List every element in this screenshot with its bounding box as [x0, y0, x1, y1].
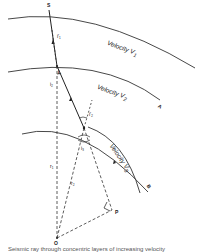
- surface-arc: [8, 16, 195, 68]
- label-angle-i3: i₃: [81, 146, 84, 151]
- point-l: [56, 65, 58, 67]
- point-o: [56, 237, 58, 239]
- right-angle-marker: [104, 202, 110, 211]
- figure-caption: Seismic ray through concentric layers of…: [8, 246, 203, 252]
- ray-diagram: S L O P A B Velocity V1 Velocity V2 Velo…: [0, 0, 207, 252]
- label-point-l: L: [58, 70, 61, 75]
- label-angle-i1p: i′₁: [57, 34, 61, 39]
- label-angle-i2p: i′₂: [89, 112, 93, 117]
- label-point-s: S: [47, 3, 50, 8]
- angle-arc-i3-b: [78, 135, 90, 137]
- label-angle-i2: i₂: [50, 82, 53, 87]
- angle-arc-i2p: [79, 117, 87, 118]
- point-junction: [83, 127, 85, 129]
- ray-extension-dashed: [84, 128, 112, 210]
- label-radius-r2: r₂: [71, 181, 75, 186]
- interface-a-arc: [8, 67, 160, 100]
- perpendicular-op: [57, 210, 112, 238]
- interface-b-arc: [22, 131, 148, 192]
- diagram-lines: [0, 0, 207, 252]
- label-radius-r1: r₁: [50, 164, 53, 169]
- label-point-p: P: [115, 210, 118, 215]
